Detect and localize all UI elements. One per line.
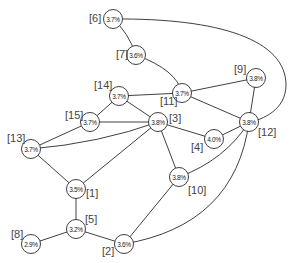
node-id-label: [1] bbox=[86, 187, 98, 199]
node-value: 3.5% bbox=[69, 186, 83, 193]
network-diagram: 3.5%[1]3.6%[2]3.8%[3]4.0%[4]3.2%[5]3.7%[… bbox=[0, 0, 291, 263]
node-11: 3.7%[11] bbox=[160, 84, 192, 108]
node-id-label: [8] bbox=[11, 228, 23, 240]
node-value: 2.9% bbox=[24, 241, 38, 248]
node-id-label: [13] bbox=[7, 132, 25, 144]
node-id-label: [6] bbox=[89, 12, 101, 24]
node-id-label: [5] bbox=[85, 213, 97, 225]
node-2: 3.6%[2] bbox=[102, 235, 134, 258]
node-id-label: [3] bbox=[169, 112, 181, 124]
node-value: 3.8% bbox=[172, 174, 186, 181]
node-value: 4.0% bbox=[207, 136, 221, 143]
node-id-label: [10] bbox=[188, 184, 206, 196]
edge-11-12 bbox=[182, 93, 249, 122]
node-10: 3.8%[10] bbox=[170, 168, 207, 197]
node-6: 3.7%[6] bbox=[89, 10, 123, 29]
node-id-label: [12] bbox=[258, 126, 276, 138]
node-15: 3.7%[15] bbox=[65, 109, 100, 132]
node-8: 2.9%[8] bbox=[11, 228, 41, 254]
node-value: 3.7% bbox=[106, 16, 120, 23]
node-value: 3.8% bbox=[242, 119, 256, 126]
node-id-label: [9] bbox=[234, 63, 246, 75]
node-value: 3.6% bbox=[117, 241, 131, 248]
node-7: 3.6%[7] bbox=[116, 46, 146, 65]
node-13: 3.7%[13] bbox=[7, 132, 41, 159]
node-id-label: [15] bbox=[65, 109, 83, 121]
node-12: 3.8%[12] bbox=[240, 113, 277, 139]
node-id-label: [4] bbox=[191, 141, 203, 153]
nodes-layer: 3.5%[1]3.6%[2]3.8%[3]4.0%[4]3.2%[5]3.7%[… bbox=[7, 10, 276, 258]
node-9: 3.8%[9] bbox=[234, 63, 266, 88]
node-14: 3.7%[14] bbox=[94, 79, 129, 106]
node-value: 3.7% bbox=[112, 93, 126, 100]
node-id-label: [14] bbox=[94, 79, 112, 91]
edge-10-2 bbox=[124, 177, 179, 244]
node-3: 3.8%[3] bbox=[149, 112, 182, 132]
node-value: 3.2% bbox=[69, 226, 83, 233]
node-value: 3.6% bbox=[129, 52, 143, 59]
node-value: 3.7% bbox=[24, 146, 38, 153]
node-id-label: [7] bbox=[116, 48, 128, 60]
node-value: 3.8% bbox=[151, 119, 165, 126]
edge-11-9 bbox=[182, 78, 256, 93]
node-5: 3.2%[5] bbox=[67, 213, 98, 239]
node-id-label: [11] bbox=[160, 95, 178, 107]
node-1: 3.5%[1] bbox=[67, 180, 99, 200]
node-4: 4.0%[4] bbox=[191, 130, 224, 154]
node-value: 3.8% bbox=[249, 75, 263, 82]
edge-1-3 bbox=[76, 122, 158, 189]
node-id-label: [2] bbox=[102, 245, 114, 257]
node-value: 3.7% bbox=[83, 119, 97, 126]
